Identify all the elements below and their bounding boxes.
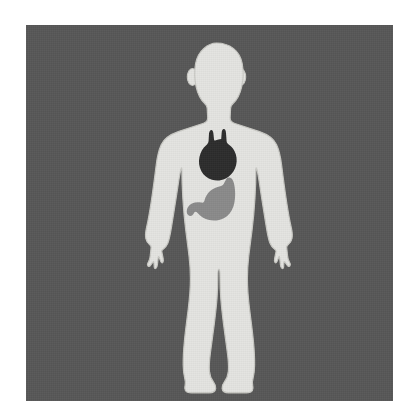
illustration-title: Human body diagram with heart and stomac…	[0, 21, 1, 22]
screenshot-canvas: Human body diagram with heart and stomac…	[0, 0, 419, 418]
human-body-figure	[26, 25, 393, 401]
illustration-panel	[26, 25, 393, 401]
